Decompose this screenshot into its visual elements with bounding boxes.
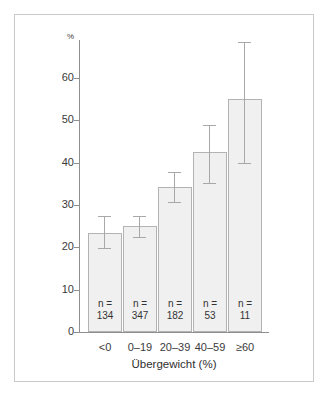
error-bar-cap-lower-4 [238, 163, 251, 164]
y-tick-label-0: 0 [48, 326, 74, 337]
y-tick-label-wrap-20: 20 [0, 241, 74, 252]
error-bar-line-2 [174, 172, 175, 203]
error-bar-cap-upper-0 [98, 216, 111, 217]
bar-n-count-0: 134 [88, 310, 122, 321]
x-axis-line [79, 332, 269, 333]
y-tick-label-wrap-30: 30 [0, 199, 74, 210]
y-tick-label-50: 50 [48, 114, 74, 125]
error-bar-cap-upper-1 [133, 216, 146, 217]
error-bar-line-4 [244, 42, 245, 163]
x-axis-title: Übergewicht (%) [79, 358, 269, 371]
error-bar-cap-lower-1 [133, 237, 146, 238]
y-tick-label-30: 30 [48, 199, 74, 210]
error-bar-cap-lower-2 [168, 202, 181, 203]
error-bar-cap-upper-2 [168, 172, 181, 173]
x-tick-label-0: <0 [88, 341, 122, 353]
x-tick-label-3: 40–59 [193, 341, 227, 353]
bar-n-count-4: 11 [228, 310, 262, 321]
bar-n-count-2: 182 [158, 310, 192, 321]
y-tick-label-wrap-0: 0 [0, 326, 74, 337]
y-tick-label-wrap-60: 60 [0, 72, 74, 83]
error-bar-cap-lower-3 [203, 183, 216, 184]
y-tick-label-wrap-50: 50 [0, 114, 74, 125]
x-tick-label-1: 0–19 [123, 341, 157, 353]
y-tick-label-wrap-40: 40 [0, 157, 74, 168]
y-tick-60 [74, 78, 79, 79]
y-tick-20 [74, 247, 79, 248]
plot-area: % 0 10 20 30 40 50 60 [0, 0, 329, 397]
y-axis-unit-label: % [52, 33, 74, 41]
y-tick-10 [74, 290, 79, 291]
bar-n-prefix-3: n = [193, 298, 227, 309]
error-bar-cap-upper-3 [203, 125, 216, 126]
bar-n-prefix-0: n = [88, 298, 122, 309]
bar-n-prefix-2: n = [158, 298, 192, 309]
bar-n-count-1: 347 [123, 310, 157, 321]
error-bar-line-0 [104, 216, 105, 248]
x-tick-label-2: 20–39 [158, 341, 192, 353]
y-tick-label-60: 60 [48, 72, 74, 83]
error-bar-line-1 [139, 216, 140, 238]
bar-n-prefix-1: n = [123, 298, 157, 309]
y-tick-label-10: 10 [48, 284, 74, 295]
figure-canvas: % 0 10 20 30 40 50 60 [0, 0, 329, 397]
error-bar-cap-upper-4 [238, 42, 251, 43]
y-tick-50 [74, 120, 79, 121]
bar-n-count-3: 53 [193, 310, 227, 321]
y-tick-label-wrap-10: 10 [0, 284, 74, 295]
bar-n-prefix-4: n = [228, 298, 262, 309]
y-tick-40 [74, 163, 79, 164]
y-tick-30 [74, 205, 79, 206]
y-axis-line [79, 40, 80, 333]
y-tick-label-20: 20 [48, 241, 74, 252]
error-bar-line-3 [209, 125, 210, 183]
y-tick-label-40: 40 [48, 157, 74, 168]
x-tick-label-4: ≥60 [228, 341, 262, 353]
error-bar-cap-lower-0 [98, 248, 111, 249]
y-tick-0 [74, 332, 79, 333]
